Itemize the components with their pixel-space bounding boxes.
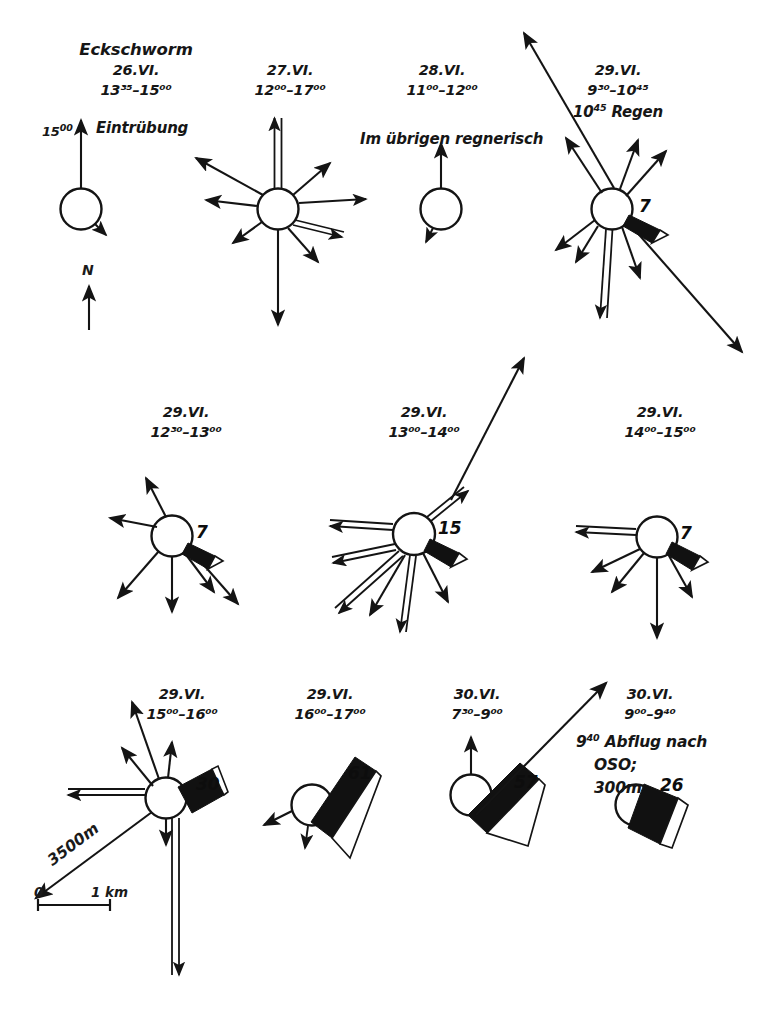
waggle-wedge-p7 bbox=[666, 542, 708, 570]
panel-date-p6: 29.VI. bbox=[401, 404, 448, 421]
panel-time-p8: 15⁰⁰–16⁰⁰ bbox=[146, 706, 217, 723]
panel-date-p1: 26.VI. bbox=[113, 62, 160, 79]
panel-diagram-p4 bbox=[524, 33, 742, 352]
abflug-note-line2: OSO; bbox=[594, 756, 637, 774]
dance-count-p8: 30 bbox=[196, 774, 220, 794]
panel-diagram-p3 bbox=[421, 143, 462, 242]
panel-diagram-p2 bbox=[196, 118, 366, 325]
dance-count-p10: 57 bbox=[514, 772, 538, 792]
panel-time-p9: 16⁰⁰–17⁰⁰ bbox=[294, 706, 365, 723]
figure-title: Eckschworm bbox=[79, 40, 192, 59]
panel-date-p8: 29.VI. bbox=[159, 686, 206, 703]
eintruebung-time: 1500 bbox=[42, 124, 73, 139]
dance-count-p6: 15 bbox=[438, 518, 462, 538]
panel-time-p10: 7³⁰–9⁰⁰ bbox=[451, 706, 502, 723]
abflug-note-line1: 940 Abflug nach bbox=[576, 733, 707, 751]
panel-date-p4: 29.VI. bbox=[595, 62, 642, 79]
abflug-note-line3: 300m bbox=[594, 779, 642, 797]
panel-time-p2: 12⁰⁰–17⁰⁰ bbox=[254, 82, 325, 99]
scale-label-right: 1 km bbox=[91, 884, 128, 900]
dance-count-p7: 7 bbox=[680, 523, 692, 543]
panel-date-p5: 29.VI. bbox=[163, 404, 210, 421]
panel-date-p10: 30.VI. bbox=[454, 686, 501, 703]
panel-diagram-p5 bbox=[110, 478, 238, 612]
regen-note: 1045 Regen bbox=[573, 104, 663, 122]
waggle-wedge-p4 bbox=[623, 215, 668, 243]
panel-time-p3: 11⁰⁰–12⁰⁰ bbox=[406, 82, 477, 99]
panel-date-p2: 27.VI. bbox=[267, 62, 314, 79]
scale-label-left: 0 bbox=[34, 884, 43, 900]
dance-count-p11: 26 bbox=[660, 775, 684, 795]
panel-diagram-p6 bbox=[330, 487, 468, 632]
waggle-wedge-p6 bbox=[424, 539, 467, 567]
dance-direction-figure bbox=[0, 0, 774, 1009]
panel-time-p11: 9⁰⁰–9⁴⁰ bbox=[624, 706, 675, 723]
panel-time-p6: 13⁰⁰–14⁰⁰ bbox=[388, 424, 459, 441]
panel-time-p4: 9³⁰–10⁴⁵ bbox=[587, 82, 648, 99]
scale-bar bbox=[38, 899, 110, 911]
panel-time-p7: 14⁰⁰–15⁰⁰ bbox=[624, 424, 695, 441]
dance-count-p5: 7 bbox=[196, 522, 208, 542]
panel-date-p3: 28.VI. bbox=[419, 62, 466, 79]
panel-date-p9: 29.VI. bbox=[307, 686, 354, 703]
waggle-wedge-p5 bbox=[182, 543, 223, 569]
regnerisch-note: Im übrigen regnerisch bbox=[360, 131, 543, 149]
panel-date-p11: 30.VI. bbox=[627, 686, 674, 703]
connector-p6-p4 bbox=[451, 358, 524, 500]
north-label: N bbox=[82, 262, 94, 278]
panel-time-p5: 12³⁰–13⁰⁰ bbox=[150, 424, 221, 441]
panel-time-p1: 13³⁵–15⁰⁰ bbox=[100, 82, 171, 99]
panel-date-p7: 29.VI. bbox=[637, 404, 684, 421]
dance-count-p4: 7 bbox=[639, 196, 651, 216]
eintruebung-note: Eintrübung bbox=[96, 120, 188, 138]
dance-count-p9: 61 bbox=[348, 763, 372, 783]
